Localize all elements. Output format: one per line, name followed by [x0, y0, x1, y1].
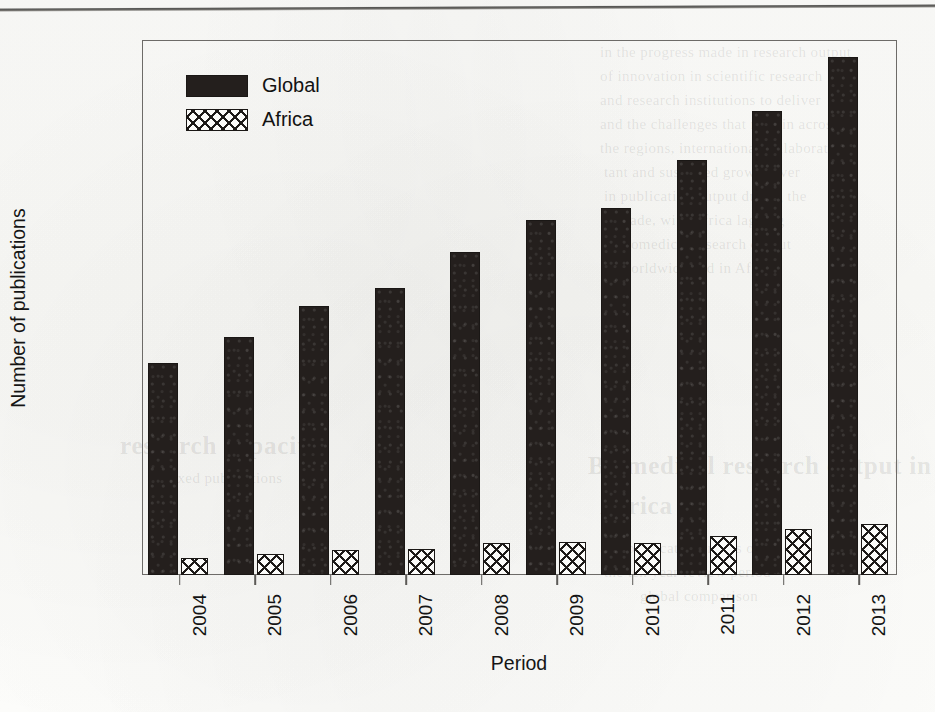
x-axis-tick-mark	[707, 575, 709, 585]
x-axis-tick-mark	[405, 575, 407, 585]
legend-swatch-global	[186, 75, 248, 97]
bar-africa-2013	[861, 524, 888, 575]
x-axis-tick-mark	[330, 575, 332, 585]
legend-label-global: Global	[262, 74, 320, 97]
x-axis-tick-mark	[481, 575, 483, 585]
legend-item-africa: Africa	[186, 108, 320, 131]
bar-africa-2006	[332, 550, 359, 575]
x-axis-tick-mark	[179, 575, 181, 585]
x-axis-tick-label-2011: 2011	[717, 594, 739, 635]
x-axis-tick-label-2010: 2010	[642, 594, 664, 636]
bar-africa-2009	[559, 542, 586, 575]
bar-africa-2004	[181, 558, 208, 575]
legend-item-global: Global	[186, 74, 320, 97]
bar-global-2012	[752, 111, 782, 575]
bar-chart: 0200040006000800010000120001400016000180…	[0, 0, 935, 712]
bar-africa-2010	[634, 543, 661, 575]
x-axis-tick-label-2005: 2005	[264, 594, 286, 636]
x-axis-tick-label-2009: 2009	[566, 594, 588, 636]
x-axis-tick-label-2006: 2006	[340, 594, 362, 636]
x-axis-tick-label-2008: 2008	[491, 594, 513, 636]
legend-swatch-africa	[186, 109, 248, 131]
x-axis-tick-label-2007: 2007	[415, 594, 437, 636]
y-axis-title: Number of publications	[7, 208, 30, 407]
bar-global-2004	[148, 363, 178, 575]
x-axis-title: Period	[491, 652, 547, 675]
bar-global-2005	[224, 337, 254, 575]
x-axis-tick-label-2012: 2012	[793, 594, 815, 636]
legend-label-africa: Africa	[262, 108, 313, 131]
x-axis-tick-mark	[632, 575, 634, 585]
x-axis-tick-mark	[556, 575, 558, 585]
bar-global-2008	[450, 252, 480, 575]
chart-legend: GlobalAfrica	[186, 74, 320, 131]
bar-global-2007	[375, 288, 405, 575]
bar-africa-2005	[257, 554, 284, 575]
x-axis-tick-mark	[783, 575, 785, 585]
bar-global-2013	[828, 57, 858, 575]
bar-global-2010	[601, 208, 631, 575]
x-axis-tick-mark	[858, 575, 860, 585]
x-axis-tick-label-2004: 2004	[189, 594, 211, 636]
bar-africa-2012	[785, 529, 812, 575]
x-axis-tick-mark	[254, 575, 256, 585]
bar-africa-2008	[483, 543, 510, 575]
bar-global-2006	[299, 306, 329, 575]
bar-africa-2007	[408, 549, 435, 575]
bar-global-2009	[526, 220, 556, 575]
scanned-page: in the progress made in research outputo…	[0, 0, 935, 712]
bar-global-2011	[677, 160, 707, 575]
bar-africa-2011	[710, 536, 737, 575]
x-axis-tick-label-2013: 2013	[868, 594, 890, 636]
